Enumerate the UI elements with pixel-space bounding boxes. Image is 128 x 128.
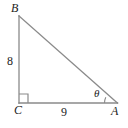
theta-arc-marker xyxy=(104,97,105,103)
geometry-figure: B C A 8 9 θ xyxy=(0,0,128,128)
right-angle-marker xyxy=(19,94,28,103)
vertex-label-a: A xyxy=(111,105,118,117)
vertex-label-b: B xyxy=(11,2,18,14)
side-length-label-bc: 8 xyxy=(7,55,13,67)
side-length-label-ca: 9 xyxy=(61,106,67,118)
vertex-label-c: C xyxy=(14,104,22,116)
angle-label-theta: θ xyxy=(94,88,99,99)
side-ab-hypotenuse-line xyxy=(19,16,118,103)
